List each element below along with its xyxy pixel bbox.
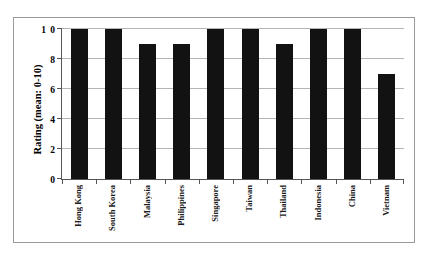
y-tick-label: 8 [36,55,56,65]
bar [242,29,259,179]
x-tick-mark [370,179,371,184]
x-axis-label: Vietnam [381,185,391,216]
x-tick-mark [96,179,97,184]
bar [310,29,327,179]
y-tick-label: 2 [36,145,56,155]
y-tick-label: 0 [36,175,56,185]
y-tick-label: 6 [36,85,56,95]
scan-header-remnant [128,0,308,9]
y-tick-mark [57,118,62,119]
bar [344,29,361,179]
bar [173,44,190,179]
y-tick-mark [57,88,62,89]
bar [105,29,122,179]
x-axis-label: Indonesia [313,185,323,220]
x-tick-mark [199,179,200,184]
x-axis-label: Hong Kong [73,185,83,227]
y-tick-mark [57,148,62,149]
x-axis-label: China [347,185,357,207]
bar [71,29,88,179]
x-axis-label: Philippines [176,185,186,226]
chart-figure-frame: Rating (mean: 0-10) 024681 0 Hong KongSo… [13,17,415,243]
x-tick-mark [130,179,131,184]
x-tick-mark [403,179,404,184]
bar [207,29,224,179]
x-axis-label: Taiwan [244,185,254,212]
x-axis-label: Malaysia [142,185,152,218]
x-axis-label: Thailand [278,185,288,218]
plot-area: 024681 0 [61,29,404,180]
x-tick-mark [336,179,337,184]
y-tick-mark [57,58,62,59]
y-tick-mark [57,28,62,29]
x-tick-mark [267,179,268,184]
x-tick-mark [233,179,234,184]
x-axis-label: South Korea [107,185,117,231]
y-tick-label: 4 [36,115,56,125]
x-tick-mark [165,179,166,184]
x-tick-mark [62,179,63,184]
bar [276,44,293,179]
x-axis-label: Singapore [210,185,220,222]
bar [378,74,395,179]
y-tick-label: 1 0 [36,25,56,35]
bar [139,44,156,179]
scan-page-number [397,0,423,9]
x-tick-mark [301,179,302,184]
